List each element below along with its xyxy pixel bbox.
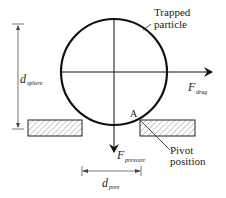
d-pore-label: d	[102, 176, 109, 190]
trapped-particle-label-2: particle	[154, 18, 187, 30]
f-drag-label: F	[187, 80, 196, 94]
pivot-position-label-2: position	[170, 155, 206, 167]
particle-leader-line	[143, 24, 151, 30]
d-sphere-label: d	[20, 72, 27, 86]
d-pore-dimension	[82, 166, 141, 176]
trapped-particle-label: Trapped	[154, 6, 191, 18]
f-pressure-subscript: pressure	[124, 157, 146, 163]
left-wall-block	[28, 120, 82, 136]
d-sphere-subscript: sphere	[27, 80, 43, 86]
trapped-particle-diagram: Trapped particle F drag d sphere A F pre…	[0, 0, 226, 198]
f-drag-subscript: drag	[196, 89, 207, 95]
f-pressure-label: F	[116, 148, 125, 162]
d-pore-subscript: pore	[108, 184, 120, 190]
point-a-label: A	[130, 108, 138, 119]
